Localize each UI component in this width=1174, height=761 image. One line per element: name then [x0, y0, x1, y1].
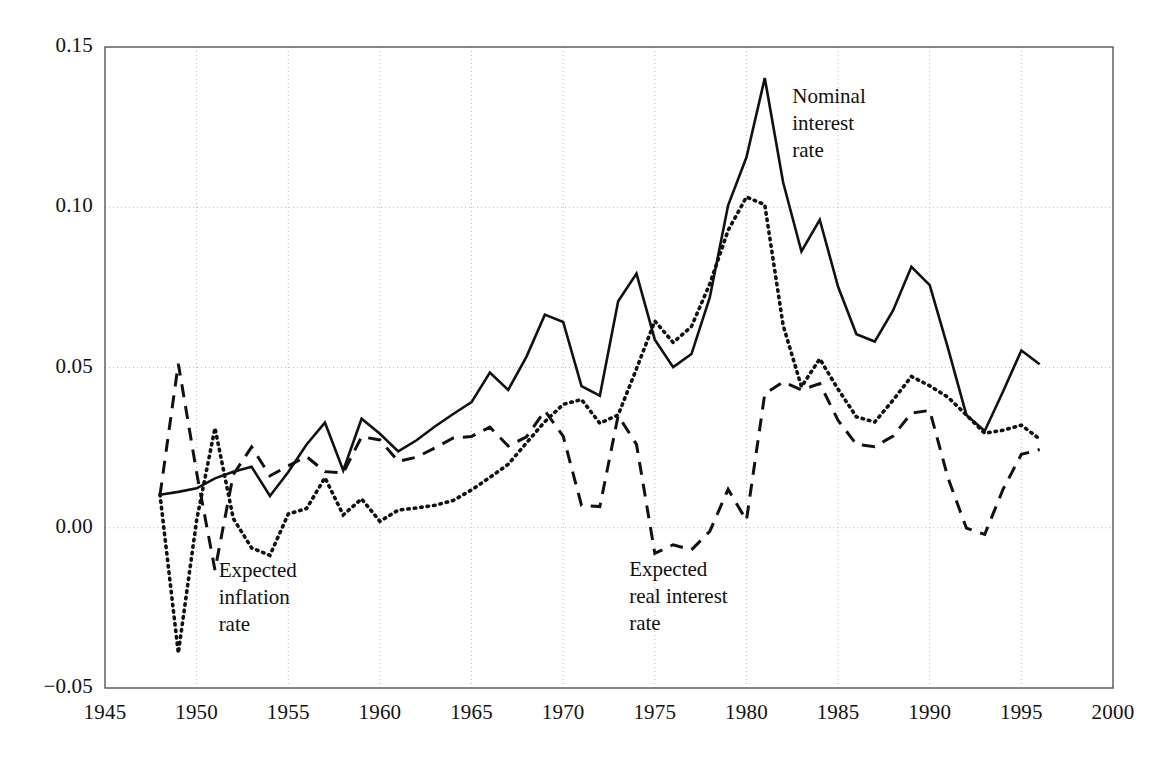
- x-axis-tick-label: 2000: [1068, 700, 1158, 725]
- y-axis-tick-label: 0.10: [55, 193, 93, 218]
- y-axis-tick-label: 0.05: [55, 354, 93, 379]
- x-axis-tick-label: 1945: [60, 700, 150, 725]
- y-axis-tick-label: 0.15: [55, 33, 93, 58]
- x-axis-tick-label: 1965: [427, 700, 517, 725]
- series-line-0: [160, 78, 1040, 496]
- annotation-nominal: Nominal interest rate: [792, 83, 866, 164]
- y-axis-tick-label: 0.00: [55, 514, 93, 539]
- line-chart-canvas: [0, 0, 1174, 761]
- annotation-expected-inflation: Expected inflation rate: [219, 557, 297, 638]
- x-axis-tick-label: 1955: [243, 700, 333, 725]
- y-axis-tick-label: −0.05: [43, 674, 93, 699]
- x-axis-tick-label: 1980: [701, 700, 791, 725]
- x-axis-tick-label: 1985: [793, 700, 883, 725]
- x-axis-tick-label: 1995: [976, 700, 1066, 725]
- x-axis-tick-label: 1975: [610, 700, 700, 725]
- x-axis-tick-label: 1950: [152, 700, 242, 725]
- x-axis-tick-label: 1960: [335, 700, 425, 725]
- x-axis-tick-label: 1970: [518, 700, 608, 725]
- x-axis-tick-label: 1990: [885, 700, 975, 725]
- annotation-expected-real: Expected real interest rate: [629, 556, 728, 637]
- chart-figure: −0.050.000.050.100.15 194519501955196019…: [0, 0, 1174, 761]
